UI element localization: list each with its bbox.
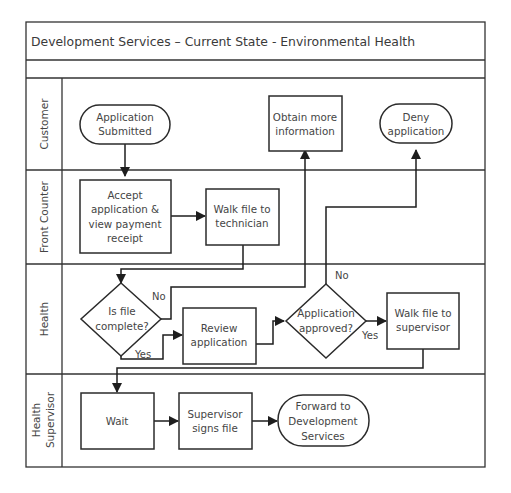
svg-text:application: application <box>191 336 248 348</box>
lane-label-health: Health <box>38 302 50 336</box>
lane-label-customer: Customer <box>38 98 50 150</box>
svg-text:approved?: approved? <box>299 322 353 334</box>
node-walk-file-to-supervisor: Walk file to supervisor <box>387 293 459 349</box>
svg-text:Deny: Deny <box>403 111 430 123</box>
node-accept-application: Accept application & view payment receip… <box>80 180 171 253</box>
svg-text:view payment: view payment <box>89 218 162 230</box>
svg-text:receipt: receipt <box>107 232 143 244</box>
svg-text:Wait: Wait <box>106 415 129 427</box>
edge-label-file-complete-yes: Yes <box>134 349 151 360</box>
svg-text:Walk file to: Walk file to <box>394 307 451 319</box>
svg-text:Application: Application <box>297 307 355 319</box>
lane-label-health-supervisor-line2: Supervisor <box>44 391 56 448</box>
diagram-title: Development Services – Current State - E… <box>31 34 415 49</box>
svg-text:Accept: Accept <box>107 189 142 201</box>
node-application-submitted: Application Submitted <box>80 105 170 144</box>
edge-label-file-complete-no: No <box>152 291 166 302</box>
node-obtain-more-information: Obtain more information <box>269 96 342 151</box>
node-supervisor-signs-file: Supervisor signs file <box>179 393 252 449</box>
svg-text:Walk file to: Walk file to <box>213 203 270 215</box>
edge-label-approved-no: No <box>335 270 349 281</box>
svg-text:technician: technician <box>215 217 268 229</box>
svg-text:complete?: complete? <box>95 320 149 332</box>
node-review-application: Review application <box>183 308 256 364</box>
node-walk-file-to-technician: Walk file to technician <box>206 189 279 245</box>
svg-text:application &: application & <box>91 203 159 215</box>
lane-label-front-counter: Front Counter <box>38 180 50 253</box>
edge-label-approved-yes: Yes <box>361 330 378 341</box>
node-wait: Wait <box>81 393 154 449</box>
svg-text:Supervisor: Supervisor <box>187 408 243 420</box>
lane-label-health-supervisor-line1: Health <box>30 403 42 437</box>
svg-text:Application: Application <box>96 111 154 123</box>
svg-text:application: application <box>388 125 445 137</box>
svg-text:Obtain more: Obtain more <box>273 111 337 123</box>
svg-text:supervisor: supervisor <box>396 321 451 333</box>
node-deny-application: Deny application <box>380 104 452 143</box>
svg-text:Development: Development <box>288 415 357 427</box>
svg-text:Review: Review <box>201 322 238 334</box>
node-is-file-complete: Is file complete? <box>81 283 161 356</box>
node-forward-to-development-services: Forward to Development Services <box>278 395 369 446</box>
svg-text:Is file: Is file <box>108 305 135 317</box>
svg-text:information: information <box>275 125 334 137</box>
svg-text:Forward to: Forward to <box>295 400 350 412</box>
node-application-approved: Application approved? <box>286 284 366 358</box>
edge-review-to-approved <box>256 321 284 344</box>
svg-text:Submitted: Submitted <box>98 125 151 137</box>
svg-text:Services: Services <box>301 430 344 442</box>
swimlane-diagram: Development Services – Current State - E… <box>0 0 511 493</box>
svg-text:signs file: signs file <box>192 422 238 434</box>
